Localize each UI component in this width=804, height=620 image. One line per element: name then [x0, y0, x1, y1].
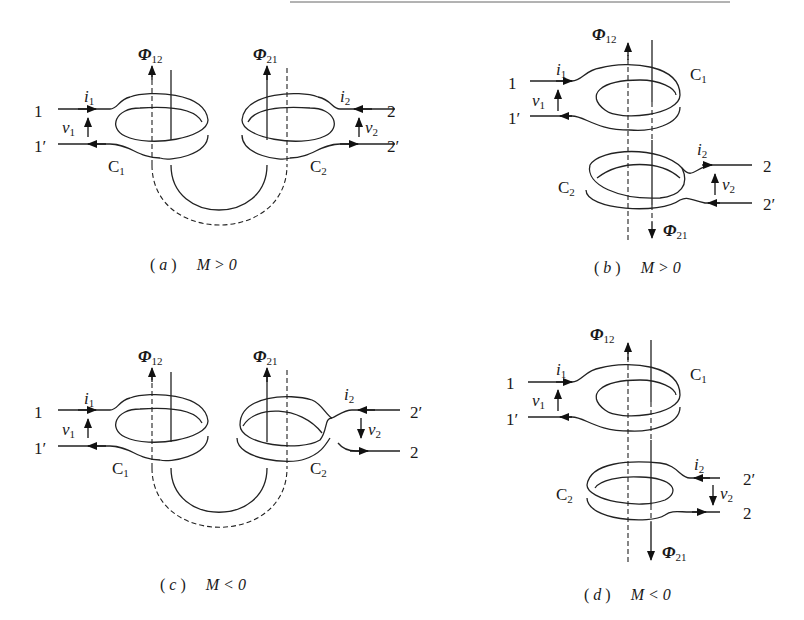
terminal-1-label: 1	[506, 374, 515, 393]
coil-1-label: C1	[690, 365, 707, 385]
voltage-1-label: v1	[62, 118, 75, 138]
current-2-label: i2	[697, 140, 707, 160]
flux-21-label: Φ21	[253, 45, 277, 65]
caption-b: (b)M > 0	[594, 259, 681, 277]
terminal-2p-label: 2′	[387, 137, 399, 156]
voltage-2-label: v2	[365, 118, 378, 138]
terminal-1p-label: 1′	[34, 439, 46, 458]
panel-c: 1 1′ 2′ 2 i1 i2 v1 v2 C1 C2 Φ12 Φ21 (c)M…	[34, 347, 422, 594]
caption-d: (d)M < 0	[584, 586, 671, 604]
caption-a: (a)M > 0	[150, 256, 237, 274]
panel-b: 1 1′ 2 2′ i1 i2 v1 v2 C1 C2 Φ12 Φ21 (b)M…	[508, 25, 775, 277]
voltage-2-label: v2	[720, 484, 733, 504]
flux-12-label: Φ12	[592, 25, 616, 45]
terminal-2-label: 2	[763, 157, 772, 176]
current-2-label: i2	[344, 385, 354, 405]
panel-d: 1 1′ 2′ 2 i1 i2 v1 v2 C1 C2 Φ12 Φ21 (d)M…	[506, 325, 755, 604]
coil-1-label: C1	[108, 157, 125, 177]
terminal-2-label: 2	[743, 504, 752, 523]
current-1-label: i1	[84, 87, 94, 107]
flux-21-label: Φ21	[253, 347, 277, 367]
voltage-2-label: v2	[722, 175, 735, 195]
terminal-2p-label: 2′	[763, 195, 775, 214]
flux-21-label: Φ21	[663, 221, 687, 241]
flux-21-label: Φ21	[662, 543, 686, 563]
voltage-1-label: v1	[62, 420, 75, 440]
terminal-1p-label: 1′	[34, 137, 46, 156]
flux-12-label: Φ12	[138, 347, 162, 367]
terminal-1-label: 1	[34, 403, 43, 422]
terminal-2p-label: 2′	[743, 470, 755, 489]
panel-a: 1 1′ 2 2′ i1 i2 v1 v2 C1 C2 Φ12 Φ21 (a)M…	[34, 45, 399, 274]
current-2-label: i2	[340, 87, 350, 107]
coil-2-label: C2	[556, 485, 573, 505]
coupled-coils-figure: 1 1′ 2 2′ i1 i2 v1 v2 C1 C2 Φ12 Φ21 (a)M…	[0, 0, 804, 620]
coil-2-label: C2	[310, 157, 327, 177]
current-1-label: i1	[556, 360, 566, 380]
current-1-label: i1	[84, 389, 94, 409]
coil-2-label: C2	[310, 459, 327, 479]
voltage-2-label: v2	[368, 420, 381, 440]
coil-1-label: C1	[112, 459, 129, 479]
voltage-1-label: v1	[532, 91, 545, 111]
terminal-1p-label: 1′	[508, 109, 520, 128]
current-2-label: i2	[694, 455, 704, 475]
coil-1-label: C1	[690, 65, 707, 85]
terminal-1-label: 1	[508, 74, 517, 93]
terminal-1-label: 1	[34, 102, 43, 121]
flux-12-label: Φ12	[590, 325, 614, 345]
terminal-2-label: 2	[387, 102, 396, 121]
caption-c: (c)M < 0	[160, 576, 246, 594]
current-1-label: i1	[556, 60, 566, 80]
voltage-1-label: v1	[532, 391, 545, 411]
terminal-1p-label: 1′	[506, 410, 518, 429]
flux-12-label: Φ12	[138, 45, 162, 65]
coil-2-label: C2	[558, 178, 575, 198]
terminal-2-label: 2	[410, 443, 419, 462]
terminal-2p-label: 2′	[410, 403, 422, 422]
